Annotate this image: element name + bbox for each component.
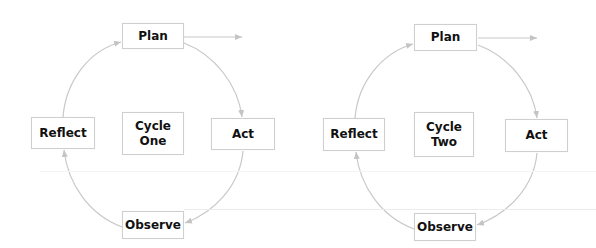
plan-label-2: Plan xyxy=(431,30,461,45)
arrow-reflect-to-plan-1 xyxy=(63,42,121,117)
act-label-2: Act xyxy=(525,128,547,143)
act-node-1: Act xyxy=(211,118,275,150)
observe-node-1: Observe xyxy=(122,211,184,239)
arrow-act-to-observe-2 xyxy=(477,153,537,225)
plan-node-2: Plan xyxy=(414,24,477,51)
arrow-observe-to-reflect-2 xyxy=(356,152,414,229)
act-label-1: Act xyxy=(232,127,254,142)
observe-label-1: Observe xyxy=(125,218,181,233)
cycle-label-line1: Cycle xyxy=(426,120,462,135)
cycle-two-label-node: Cycle Two xyxy=(414,112,474,157)
observe-node-2: Observe xyxy=(414,213,476,241)
reflect-label-1: Reflect xyxy=(39,126,86,141)
plan-node-1: Plan xyxy=(122,23,184,49)
cycle-label-line2: Two xyxy=(431,135,457,150)
act-node-2: Act xyxy=(505,119,568,152)
arrow-plan-to-act-1 xyxy=(184,43,242,117)
cycle-label-line1: Cycle xyxy=(135,119,171,134)
arrow-act-to-observe-1 xyxy=(185,151,243,223)
reflect-label-2: Reflect xyxy=(330,127,377,142)
reflect-node-2: Reflect xyxy=(323,118,385,151)
arrow-plan-to-act-2 xyxy=(478,45,537,118)
arrow-observe-to-reflect-1 xyxy=(64,150,122,227)
arrow-reflect-to-plan-2 xyxy=(355,44,413,118)
plan-label-1: Plan xyxy=(138,29,168,44)
faint-divider-line xyxy=(184,209,596,210)
cycle-one-label-node: Cycle One xyxy=(122,112,184,155)
faint-divider-line-upper xyxy=(40,171,596,172)
observe-label-2: Observe xyxy=(417,220,473,235)
cycle-label-line2: One xyxy=(140,134,167,149)
reflect-node-1: Reflect xyxy=(31,117,95,149)
